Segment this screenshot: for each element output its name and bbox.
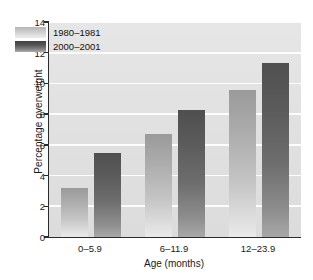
y-axis-tick-label: 10 <box>34 78 45 89</box>
legend-swatch-icon-1980-1981 <box>15 27 46 38</box>
gridline <box>49 52 301 54</box>
x-axis-tick-label: 12–23.9 <box>241 243 275 254</box>
legend-label-1980-1981: 1980–1981 <box>53 27 101 38</box>
legend-item-2000-2001: 2000–2001 <box>15 41 101 52</box>
bar-2000-2001-1 <box>178 110 205 237</box>
y-axis-tick-label: 2 <box>40 201 45 212</box>
legend-swatch-icon-2000-2001 <box>15 41 46 52</box>
y-axis-tick-label: 14 <box>34 17 45 28</box>
x-axis-tick-label: 6–11.9 <box>160 243 188 254</box>
legend-item-1980-1981: 1980–1981 <box>15 27 101 38</box>
bar-2000-2001-0 <box>94 153 121 237</box>
gridline <box>49 22 301 23</box>
legend-label-2000-2001: 2000–2001 <box>53 41 101 52</box>
plot-inner <box>49 22 301 237</box>
y-axis-tick-label: 0 <box>40 232 45 243</box>
bar-1980-1981-2 <box>229 90 256 237</box>
bar-1980-1981-0 <box>61 188 88 237</box>
x-axis-tick-label: 0–5.9 <box>78 243 102 254</box>
chart-legend: 1980–1981 2000–2001 <box>15 27 101 52</box>
bar-chart-figure: Percentage overweight 02468101214 1980–1… <box>0 0 313 280</box>
y-axis-tick-label: 8 <box>40 109 45 120</box>
bar-1980-1981-1 <box>145 134 172 237</box>
y-axis-tick-label: 6 <box>40 139 45 150</box>
y-axis-tick-label: 4 <box>40 170 45 181</box>
plot-area: 02468101214 <box>48 22 301 238</box>
bar-2000-2001-2 <box>262 63 289 237</box>
x-axis-title: Age (months) <box>48 258 300 269</box>
